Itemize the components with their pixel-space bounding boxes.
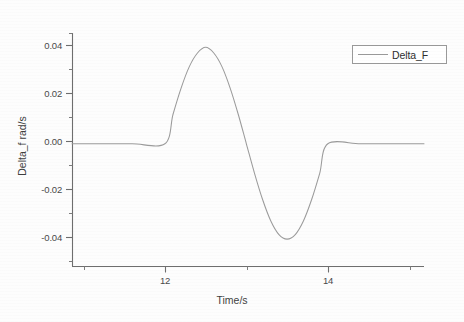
y-tick-label-0: 0.04 — [18, 40, 62, 51]
y-axis-major-ticks — [66, 46, 73, 238]
legend-entry-delta-f[interactable]: Delta_F — [353, 46, 446, 63]
series-line-delta-f — [72, 47, 424, 239]
legend-entry-label: Delta_F — [392, 49, 428, 61]
x-axis-title: Time/s — [0, 294, 464, 306]
figure-canvas: 0.04 0.02 0.00 -0.02 -0.04 12 14 Time/s … — [0, 0, 464, 322]
y-axis-title: Delta_f rad/s — [16, 86, 28, 206]
chart-legend[interactable]: Delta_F — [352, 45, 447, 64]
x-tick-label-0: 12 — [145, 275, 185, 286]
y-tick-label-4: -0.04 — [18, 232, 62, 243]
legend-line-swatch-icon — [358, 54, 388, 55]
x-tick-label-1: 14 — [308, 275, 348, 286]
